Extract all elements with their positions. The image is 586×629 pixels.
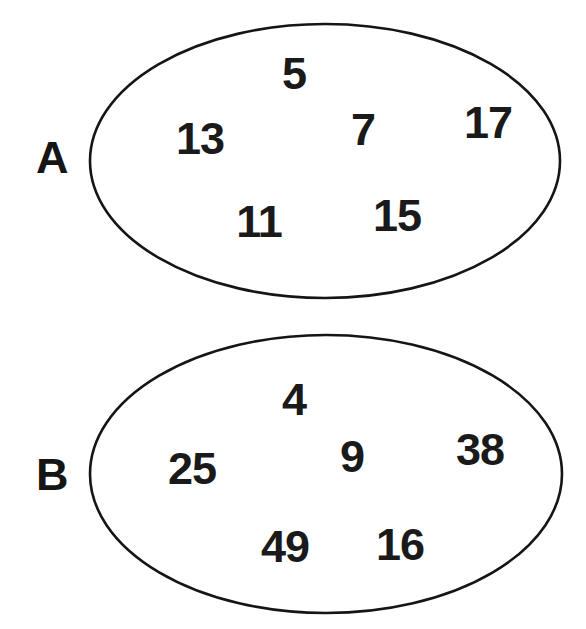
set-b-label: B <box>36 452 68 497</box>
set-diagram-figure: A 5 13 7 17 11 15 B 4 25 9 38 49 16 <box>0 0 586 629</box>
set-a-member: 7 <box>351 107 375 152</box>
set-b-member: 49 <box>261 524 309 569</box>
set-a-ellipse <box>90 24 560 298</box>
set-b-member: 25 <box>168 446 216 491</box>
set-b-member: 4 <box>282 377 306 422</box>
set-a-label: A <box>36 135 68 180</box>
set-a-member: 15 <box>373 193 421 238</box>
set-b-member: 9 <box>340 434 364 479</box>
set-a-member: 13 <box>176 116 224 161</box>
set-a-member: 17 <box>464 100 512 145</box>
set-b-member: 38 <box>456 427 504 472</box>
set-b-member: 16 <box>376 522 424 567</box>
set-a-member: 11 <box>236 199 282 244</box>
set-a-member: 5 <box>282 51 306 96</box>
